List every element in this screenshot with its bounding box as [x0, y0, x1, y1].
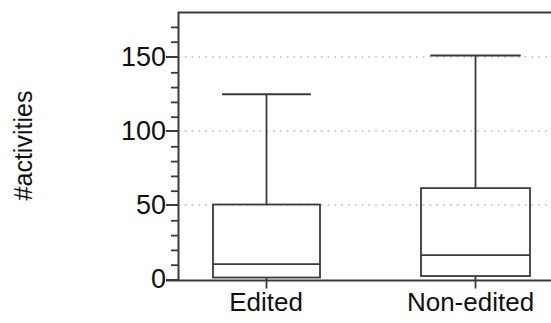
boxplot-figure: #activities 150 100 50 0 Edited Non-edit…	[0, 0, 551, 323]
y-axis-major-ticks	[166, 57, 179, 280]
gridlines	[178, 57, 551, 205]
axis-frame	[166, 12, 551, 281]
box-rect-non-edited	[421, 188, 530, 276]
plot-area	[0, 0, 551, 323]
box-rect-edited	[213, 205, 320, 278]
box-non-edited	[421, 56, 530, 289]
box-edited	[213, 94, 320, 288]
